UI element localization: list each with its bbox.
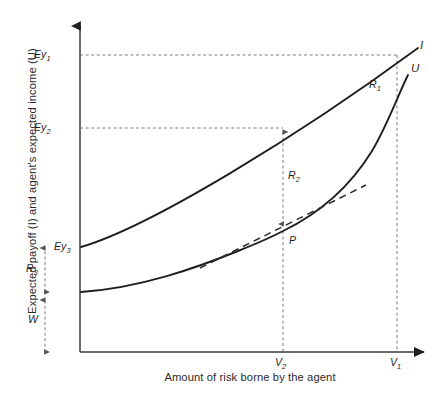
y-tick-label-ey3: Ey3 <box>54 240 71 255</box>
y-tick-label-ey1: Ey1 <box>34 48 51 63</box>
x-axis-title: Amount of risk borne by the agent <box>80 371 420 383</box>
curve-label-u: U <box>411 62 419 74</box>
gap-label-w: W <box>28 313 38 325</box>
curve-label-i: I <box>420 39 423 51</box>
y-axis-title: Expected payoff (I) and agent's expected… <box>26 31 38 331</box>
diagram-canvas <box>0 0 440 403</box>
x-tick-label-v2: V2 <box>275 356 286 371</box>
gap-label-r1: R1 <box>369 78 381 93</box>
gap-label-r2: R2 <box>288 169 300 184</box>
y-tick-label-ey2: Ey2 <box>34 121 51 136</box>
x-tick-label-v1: V1 <box>390 356 401 371</box>
figure-root: Expected payoff (I) and agent's expected… <box>0 0 440 403</box>
point-label-p: P <box>289 234 296 246</box>
curve-i-line <box>81 48 418 247</box>
curve-u-line <box>81 75 408 292</box>
gap-label-r3: R3 <box>26 262 38 277</box>
